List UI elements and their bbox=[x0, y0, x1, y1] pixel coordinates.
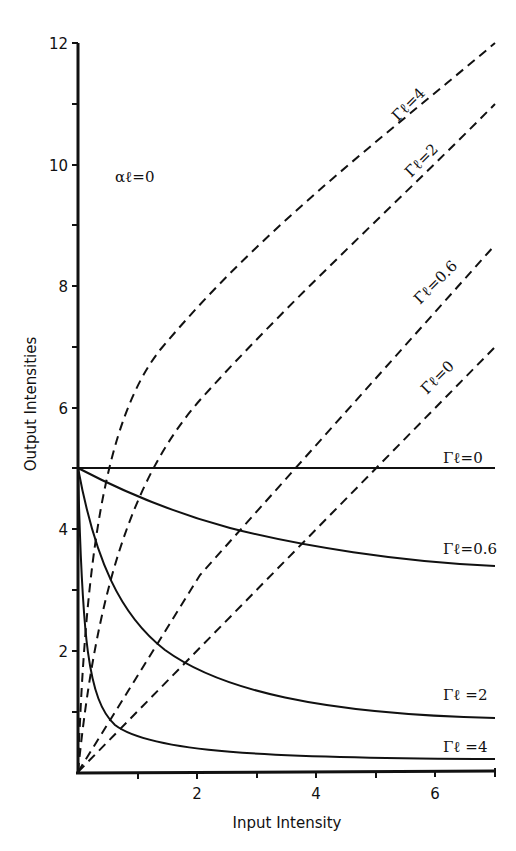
x-axis bbox=[76, 771, 496, 773]
y-axis-title: Output Intensities bbox=[22, 337, 40, 472]
y-tick-2: 2 bbox=[58, 643, 68, 661]
x-tick-4: 4 bbox=[311, 785, 321, 803]
y-tick-4: 4 bbox=[58, 521, 68, 539]
label-solid-gamma-0.6: Γℓ=0.6 bbox=[443, 540, 497, 558]
y-tick-10: 10 bbox=[49, 157, 68, 175]
y-tick-labels: 12 10 8 6 4 2 bbox=[49, 35, 68, 661]
solid-curve-gamma-2 bbox=[78, 468, 495, 718]
y-tick-12: 12 bbox=[49, 35, 68, 53]
alpha-l-annotation: αℓ=0 bbox=[115, 168, 154, 186]
label-dashed-gamma-0.6: Γℓ=0.6 bbox=[410, 257, 461, 308]
x-tick-2: 2 bbox=[192, 785, 202, 803]
x-tick-6: 6 bbox=[430, 785, 440, 803]
y-tick-6: 6 bbox=[58, 400, 68, 418]
y-tick-8: 8 bbox=[58, 278, 68, 296]
dashed-curve-gamma-2 bbox=[78, 104, 495, 772]
label-dashed-gamma-2: Γℓ=2 bbox=[401, 140, 442, 181]
label-dashed-gamma-4: Γℓ=4 bbox=[388, 84, 429, 125]
solid-curve-gamma-0.6 bbox=[78, 468, 495, 566]
x-tick-labels: 2 4 6 bbox=[192, 785, 440, 803]
solid-curves bbox=[78, 468, 495, 759]
x-axis-title: Input Intensity bbox=[233, 814, 342, 832]
label-solid-gamma-2: Γℓ =2 bbox=[443, 686, 487, 704]
label-solid-gamma-0: Γℓ=0 bbox=[443, 449, 483, 467]
label-solid-gamma-4: Γℓ =4 bbox=[443, 738, 487, 756]
dashed-curve-gamma-0.6 bbox=[78, 245, 495, 772]
dashed-curve-gamma-0 bbox=[78, 347, 495, 772]
chart-canvas: 12 10 8 6 4 2 2 4 6 Input Intensity Outp… bbox=[0, 0, 516, 851]
